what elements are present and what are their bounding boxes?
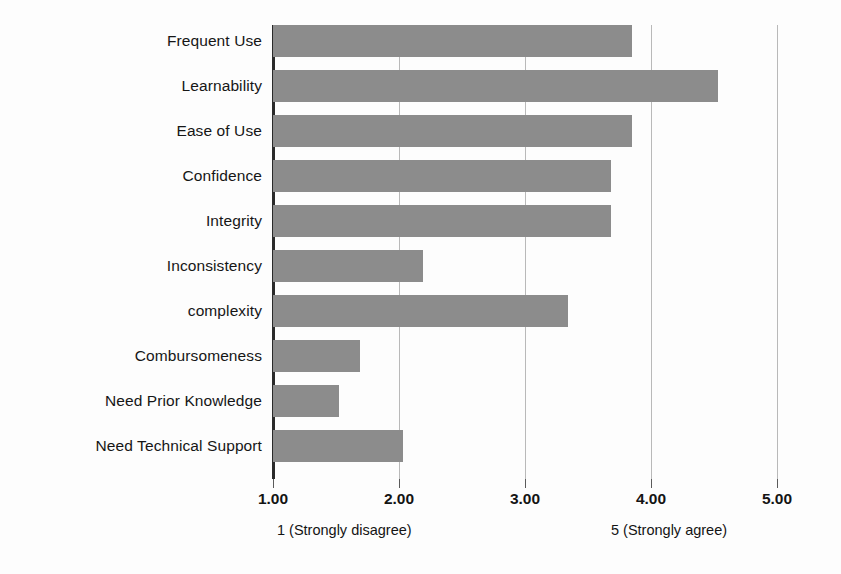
x-tick-label: 5.00 [762, 490, 792, 508]
x-tick-label: 3.00 [510, 490, 540, 508]
low-anchor-label: 1 (Strongly disagree) [277, 522, 412, 538]
bar [273, 340, 360, 372]
high-anchor-label: 5 (Strongly agree) [611, 522, 727, 538]
bar [273, 295, 568, 327]
x-tick-label: 4.00 [636, 490, 666, 508]
x-tick-mark [651, 479, 652, 488]
x-tick-label: 2.00 [384, 490, 414, 508]
bar [273, 25, 632, 57]
bar [273, 205, 611, 237]
bar-fill [273, 295, 568, 327]
bar [273, 160, 611, 192]
bar [273, 115, 632, 147]
gridline [777, 25, 778, 479]
x-tick-mark [525, 479, 526, 488]
category-label: Need Technical Support [0, 430, 262, 462]
x-tick-label: 1.00 [258, 490, 288, 508]
category-label: Inconsistency [0, 250, 262, 282]
category-label: Frequent Use [0, 25, 262, 57]
category-label: Need Prior Knowledge [0, 385, 262, 417]
x-tick-mark [777, 479, 778, 488]
bar-fill [273, 430, 403, 462]
bar-fill [273, 340, 360, 372]
bar [273, 250, 423, 282]
bar-fill [273, 160, 611, 192]
category-label: Confidence [0, 160, 262, 192]
x-tick-mark [273, 479, 274, 488]
bar-fill [273, 250, 423, 282]
bar-fill [273, 385, 339, 417]
bar [273, 430, 403, 462]
bar-fill [273, 25, 632, 57]
plot-area [273, 25, 777, 479]
category-label: Combursomeness [0, 340, 262, 372]
bar-chart: Frequent UseLearnabilityEase of UseConfi… [0, 0, 841, 574]
bar [273, 385, 339, 417]
bar-fill [273, 70, 718, 102]
x-tick-mark [399, 479, 400, 488]
bar-fill [273, 115, 632, 147]
category-label: complexity [0, 295, 262, 327]
category-label: Ease of Use [0, 115, 262, 147]
bar-fill [273, 205, 611, 237]
bar [273, 70, 718, 102]
category-axis: Frequent UseLearnabilityEase of UseConfi… [0, 25, 262, 479]
category-label: Learnability [0, 70, 262, 102]
category-label: Integrity [0, 205, 262, 237]
